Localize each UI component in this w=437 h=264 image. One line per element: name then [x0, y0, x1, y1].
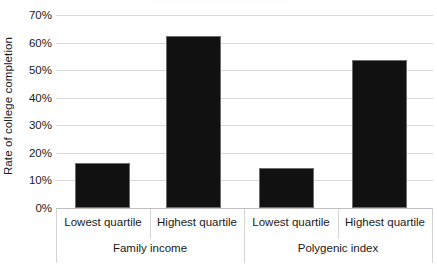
y-axis-title-text: Rate of college completion — [2, 37, 14, 175]
bar-family-income-lowest[interactable] — [75, 163, 130, 208]
plot-area — [56, 15, 433, 208]
bar-family-income-highest[interactable] — [166, 36, 221, 208]
y-tick-label-30: 30% — [16, 119, 52, 131]
bar-polygenic-index-highest[interactable] — [352, 60, 407, 208]
group-label-polygenic-index: Polygenic index — [244, 241, 432, 255]
tick-separator-end — [432, 209, 433, 263]
y-tick-label-20: 20% — [16, 147, 52, 159]
bar-polygenic-index-lowest[interactable] — [259, 168, 314, 208]
y-tick-label-0: 0% — [16, 202, 52, 214]
category-axis: Lowest quartile Highest quartile Lowest … — [56, 209, 433, 264]
y-tick-label-50: 50% — [16, 64, 52, 76]
gridline-70 — [56, 15, 433, 16]
category-label-family-income-lowest: Lowest quartile — [56, 215, 150, 229]
y-axis-title: Rate of college completion — [0, 0, 16, 212]
y-tick-label-60: 60% — [16, 37, 52, 49]
category-label-polygenic-index-lowest: Lowest quartile — [244, 215, 338, 229]
y-tick-label-40: 40% — [16, 92, 52, 104]
group-label-family-income: Family income — [56, 241, 244, 255]
category-label-family-income-highest: Highest quartile — [150, 215, 244, 229]
y-tick-label-10: 10% — [16, 174, 52, 186]
category-label-polygenic-index-highest: Highest quartile — [338, 215, 432, 229]
gridline-60 — [56, 43, 433, 44]
bar-chart: Rate of college completion 70% 60% 50% 4… — [0, 0, 437, 264]
cropped-title-remnant — [150, 0, 290, 1]
y-tick-label-70: 70% — [16, 9, 52, 21]
